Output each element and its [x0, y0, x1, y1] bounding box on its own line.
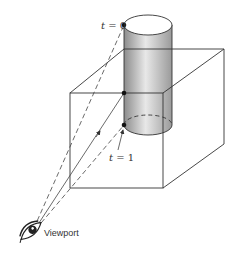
point-surface — [122, 91, 127, 96]
label-t1-eq: = 1 — [113, 152, 134, 163]
label-viewport: Viewport — [44, 228, 79, 238]
point-t1 — [122, 123, 127, 128]
ray-dashed-to-t0 — [34, 25, 124, 228]
t1-pointer-arrow — [118, 130, 123, 150]
label-t1: t = 1 — [109, 152, 134, 163]
rays — [34, 25, 124, 229]
cylinder-shaded — [124, 15, 172, 135]
ray-cylinder-diagram: t = 0 t = 1 Viewport — [0, 0, 234, 258]
eye-icon — [14, 217, 44, 245]
ray-dashed-to-t1 — [36, 125, 124, 229]
label-t0: t = 0 — [101, 20, 126, 31]
diagram-canvas: t = 0 t = 1 Viewport — [0, 0, 234, 258]
ray-direction-arrow — [96, 131, 100, 137]
label-t0-eq: = 0 — [105, 20, 126, 31]
